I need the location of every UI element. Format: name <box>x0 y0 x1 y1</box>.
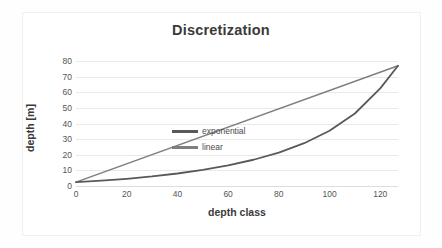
y-axis-label: depth [m] <box>22 78 38 178</box>
legend-item-linear[interactable]: linear <box>172 141 292 154</box>
series-lines <box>76 61 398 186</box>
x-tick-label: 80 <box>264 190 294 199</box>
legend-label: linear <box>202 143 223 152</box>
y-axis-label-text: depth [m] <box>24 104 36 152</box>
plot-area: exponentiallinear <box>76 61 398 186</box>
y-tick-label: 70 <box>50 73 72 82</box>
y-tick-label: 10 <box>50 166 72 175</box>
legend-swatch-linear <box>172 146 198 149</box>
gridline <box>76 186 398 187</box>
x-axis-label: depth class <box>76 206 398 218</box>
x-tick-label: 60 <box>213 190 243 199</box>
x-axis-tick-labels: 020406080100120 <box>76 190 398 204</box>
x-tick-label: 20 <box>112 190 142 199</box>
x-tick-label: 120 <box>365 190 395 199</box>
y-axis-tick-labels: 01020304050607080 <box>48 61 72 186</box>
legend-item-exponential[interactable]: exponential <box>172 125 292 138</box>
chart-title: Discretization <box>0 22 442 38</box>
chart-legend: exponentiallinear <box>172 125 292 157</box>
y-tick-label: 80 <box>50 57 72 66</box>
x-tick-label: 40 <box>162 190 192 199</box>
y-tick-label: 60 <box>50 88 72 97</box>
chart-screenshot: Discretization depth [m] 010203040506070… <box>0 0 442 248</box>
y-tick-label: 40 <box>50 120 72 129</box>
y-tick-label: 30 <box>50 135 72 144</box>
x-tick-label: 100 <box>315 190 345 199</box>
legend-label: exponential <box>202 127 245 136</box>
y-tick-label: 50 <box>50 104 72 113</box>
series-line-linear <box>76 66 398 182</box>
legend-swatch-exponential <box>172 130 198 133</box>
x-tick-label: 0 <box>61 190 91 199</box>
y-tick-label: 20 <box>50 151 72 160</box>
